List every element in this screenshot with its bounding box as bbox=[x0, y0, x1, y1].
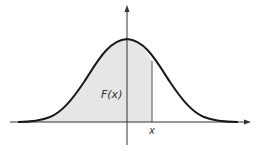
normal-curve-diagram: F(x) x bbox=[0, 0, 263, 151]
x-axis-arrow-icon bbox=[244, 120, 251, 125]
area-label: F(x) bbox=[101, 88, 122, 101]
x-marker-label: x bbox=[148, 125, 155, 136]
y-axis-arrow-icon bbox=[125, 5, 130, 12]
